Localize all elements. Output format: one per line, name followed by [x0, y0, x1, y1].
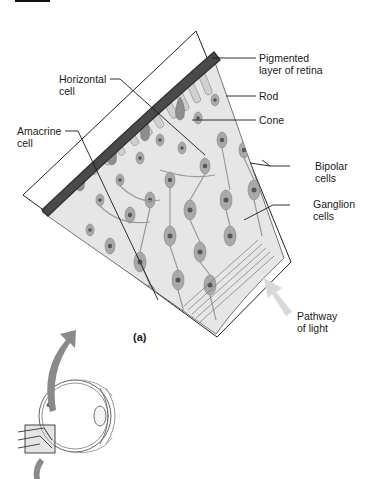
label-line: Pigmented: [259, 52, 323, 64]
label-line: Bipolar: [315, 160, 348, 172]
label-cone: Cone: [259, 114, 284, 126]
label-line: Amacrine: [17, 125, 61, 137]
label-line: Horizontal: [59, 73, 106, 85]
label-horizontal-cell: Horizontal cell: [59, 73, 106, 97]
label-line: cells: [315, 172, 348, 184]
label-line: cell: [17, 137, 61, 149]
label-line: cells: [313, 210, 355, 222]
label-line: Cone: [259, 114, 284, 126]
light-pathway-arrow: [264, 278, 292, 316]
label-line: cell: [59, 85, 106, 97]
label-rod: Rod: [259, 90, 278, 102]
label-line: layer of retina: [259, 64, 323, 76]
label-pathway-of-light: Pathway of light: [297, 310, 337, 334]
eye-diagram: [18, 380, 115, 453]
label-line: Rod: [259, 90, 278, 102]
label-line: Ganglion: [313, 198, 355, 210]
panel-label: (a): [133, 331, 146, 343]
zoom-arrow-up: [47, 330, 76, 412]
label-ganglion-cells: Ganglion cells: [313, 198, 355, 222]
retina-diagram: Pigmented layer of retina Rod Cone Bipol…: [0, 0, 374, 479]
label-bipolar-cells: Bipolar cells: [315, 160, 348, 184]
label-amacrine-cell: Amacrine cell: [17, 125, 61, 149]
label-line: Pathway: [297, 310, 337, 322]
label-line: of light: [297, 322, 337, 334]
zoom-arrow-bottom: [34, 458, 44, 479]
label-pigmented-layer: Pigmented layer of retina: [259, 52, 323, 76]
